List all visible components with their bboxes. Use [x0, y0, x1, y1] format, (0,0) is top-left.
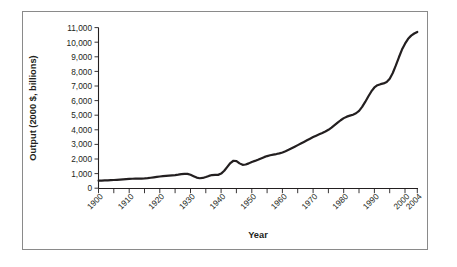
y-axis-title: Output (2000 $, billions)	[28, 55, 38, 160]
y-tick-label-6000: 6,000	[71, 96, 92, 106]
x-tick-label-1940: 1940	[207, 191, 227, 211]
y-tick-label-4000: 4,000	[71, 125, 92, 135]
x-tick-label-1920: 1920	[146, 191, 166, 211]
y-tick-label-11000: 11,000	[67, 23, 92, 33]
x-tick-label-1960: 1960	[269, 191, 289, 211]
y-tick-label-9000: 9,000	[71, 52, 92, 62]
y-tick-label-8000: 8,000	[71, 67, 92, 77]
gdp-line-chart: Output (2000 $, billions) 11,000 10,000 …	[0, 0, 457, 267]
y-tick-label-1000: 1,000	[71, 169, 92, 179]
y-tick-label-5000: 5,000	[71, 110, 92, 120]
x-tick-label-1900: 1900	[85, 191, 105, 211]
gdp-output-series-line	[99, 32, 418, 181]
y-tick-label-7000: 7,000	[71, 81, 92, 91]
x-tick-label-1910: 1910	[115, 191, 135, 211]
chart-figure: Output (2000 $, billions) 11,000 10,000 …	[0, 0, 457, 267]
x-tick-label-1930: 1930	[177, 191, 197, 211]
x-tick-label-1990: 1990	[361, 191, 381, 211]
x-tick-label-1980: 1980	[330, 191, 350, 211]
x-tick-label-1970: 1970	[299, 191, 319, 211]
y-tick-label-10000: 10,000	[67, 38, 93, 48]
x-tick-group	[99, 189, 418, 194]
x-tick-label-1950: 1950	[238, 191, 258, 211]
y-tick-label-3000: 3,000	[71, 139, 92, 149]
x-axis-title: Year	[248, 230, 268, 240]
y-tick-label-2000: 2,000	[71, 154, 92, 164]
y-tick-label-0: 0	[87, 183, 92, 193]
